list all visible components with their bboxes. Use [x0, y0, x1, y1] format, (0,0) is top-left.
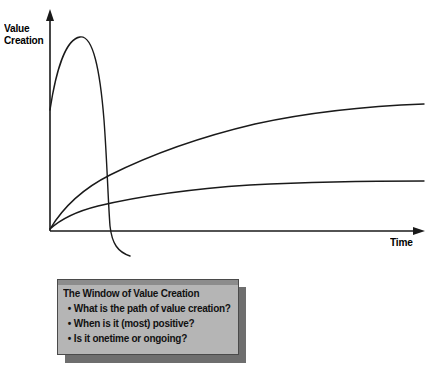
callout-content: The Window of Value Creation •What is th… [58, 280, 238, 346]
y-axis-label: Value Creation [4, 22, 44, 46]
x-axis-label: Time [390, 236, 413, 248]
series-low-growth-curve [50, 181, 424, 229]
callout-bullet-text: Is it onetime or ongoing? [74, 332, 187, 344]
series-spike-curve [50, 37, 130, 256]
y-axis [46, 9, 54, 231]
bullet-icon: • [68, 301, 71, 316]
callout-bullet-text: When is it (most) positive? [74, 317, 195, 329]
callout-bullet-text: What is the path of value creation? [74, 302, 231, 314]
callout-title: The Window of Value Creation [63, 286, 229, 301]
bullet-icon: • [68, 331, 71, 346]
bullet-icon: • [68, 316, 71, 331]
callout-bullet-item: •Is it onetime or ongoing? [63, 331, 229, 346]
x-axis [50, 227, 425, 235]
callout-box: The Window of Value Creation •What is th… [57, 279, 239, 355]
callout-bullet-item: •What is the path of value creation? [63, 301, 229, 316]
callout-bullet-item: •When is it (most) positive? [63, 316, 229, 331]
